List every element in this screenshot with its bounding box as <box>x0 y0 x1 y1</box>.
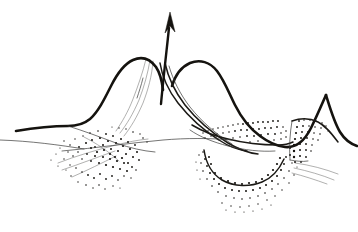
sketch-canvas <box>0 0 358 232</box>
background <box>0 0 358 232</box>
geologic-cross-section-svg <box>0 0 358 232</box>
